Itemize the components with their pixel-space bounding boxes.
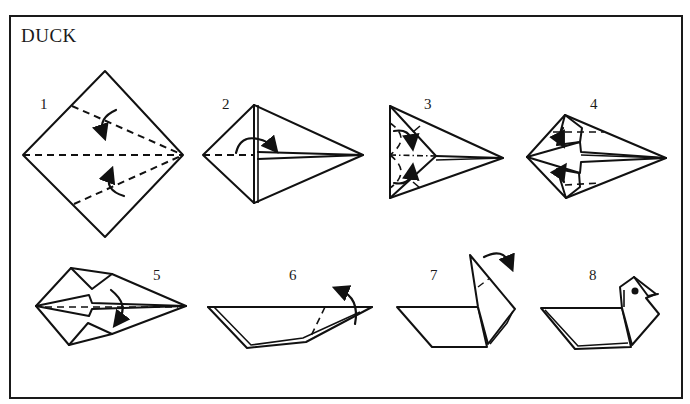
origami-steps <box>0 0 690 404</box>
step-6-diagram <box>208 290 372 348</box>
step-1-diagram <box>23 71 183 237</box>
step-3-diagram <box>390 106 503 198</box>
step-7-diagram <box>397 253 515 347</box>
step-5-diagram <box>36 268 186 345</box>
step-4-diagram <box>527 115 666 198</box>
step-8-diagram <box>541 277 659 349</box>
step-2-diagram <box>203 105 363 203</box>
